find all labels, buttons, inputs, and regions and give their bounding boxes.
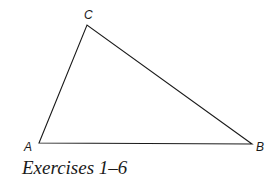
figure-caption: Exercises 1–6: [22, 157, 127, 179]
vertex-label-b: B: [256, 140, 264, 154]
vertex-label-a: A: [23, 140, 32, 154]
triangle-abc: [39, 25, 252, 144]
vertex-label-c: C: [84, 8, 93, 22]
triangle-diagram: C A B: [0, 0, 273, 183]
